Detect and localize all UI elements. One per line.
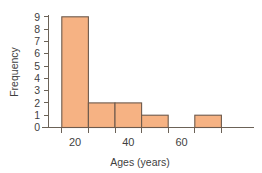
bar-bin-3	[142, 115, 169, 127]
bar-bin-2	[115, 103, 142, 128]
bar-bin-1	[88, 103, 115, 128]
y-tick-label-8: 8	[34, 23, 40, 35]
x-tick-label-60: 60	[175, 136, 187, 148]
y-tick-label-6: 6	[34, 47, 40, 59]
y-tick-label-9: 9	[34, 11, 40, 23]
y-axis-title: Frequency	[8, 46, 20, 96]
y-axis-tick-labels: 0 1 2 3 4 5 6 7 8 9	[34, 11, 40, 134]
chart-canvas: 0 1 2 3 4 5 6 7 8 9	[0, 0, 262, 173]
bar-bin-0	[62, 17, 89, 128]
y-tick-label-1: 1	[34, 109, 40, 121]
x-tick-label-40: 40	[122, 136, 134, 148]
y-tick-label-4: 4	[34, 72, 40, 84]
y-tick-label-0: 0	[34, 121, 40, 133]
y-tick-label-2: 2	[34, 97, 40, 109]
y-tick-label-7: 7	[34, 35, 40, 47]
x-tick-label-20: 20	[69, 136, 81, 148]
y-tick-label-5: 5	[34, 60, 40, 72]
y-tick-label-3: 3	[34, 84, 40, 96]
bar-bin-5	[195, 115, 222, 127]
histogram-chart: 0 1 2 3 4 5 6 7 8 9	[0, 0, 262, 173]
x-axis-title: Ages (years)	[110, 156, 170, 168]
